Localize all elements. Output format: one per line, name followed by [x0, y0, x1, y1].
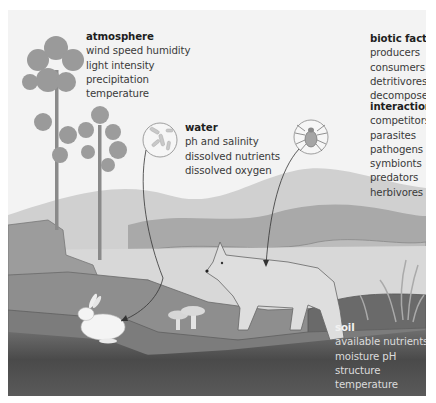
water-item: dissolved oxygen [185, 164, 280, 178]
atmosphere-item: wind speed humidity [86, 44, 190, 58]
atmosphere-title: atmosphere [86, 30, 190, 44]
ecosystem-illustration: atmosphere wind speed humidity light int… [8, 10, 426, 396]
soil-factors: soil available nutrients moisture pH str… [335, 321, 426, 392]
interaction-item: pathogens [370, 143, 426, 157]
interaction-item: symbionts [370, 157, 426, 171]
soil-item: structure [335, 364, 426, 378]
interaction-item: competitors [370, 114, 426, 128]
atmosphere-item: temperature [86, 87, 190, 101]
atmosphere-factors: atmosphere wind speed humidity light int… [86, 30, 190, 101]
water-item: ph and salinity [185, 135, 280, 149]
interactions-title: interactions [370, 100, 426, 114]
soil-item: moisture pH [335, 350, 426, 364]
soil-item: temperature [335, 378, 426, 392]
biotic-item: detritivores [370, 75, 426, 89]
water-factors: water ph and salinity dissolved nutrient… [185, 121, 280, 178]
soil-item: available nutrients [335, 335, 426, 349]
biotic-factors: biotic factors producers consumers detri… [370, 32, 426, 103]
biotic-item: consumers [370, 61, 426, 75]
soil-title: soil [335, 321, 426, 335]
interaction-item: herbivores [370, 186, 426, 200]
tick-callout [294, 120, 328, 154]
biotic-factors-title: biotic factors [370, 32, 426, 46]
bacteria-callout [143, 123, 177, 157]
water-title: water [185, 121, 280, 135]
biotic-item: producers [370, 46, 426, 60]
atmosphere-item: precipitation [86, 73, 190, 87]
water-item: dissolved nutrients [185, 150, 280, 164]
interaction-item: predators [370, 171, 426, 185]
interactions: interactions competitors parasites patho… [370, 100, 426, 200]
interaction-item: parasites [370, 129, 426, 143]
atmosphere-item: light intensity [86, 59, 190, 73]
